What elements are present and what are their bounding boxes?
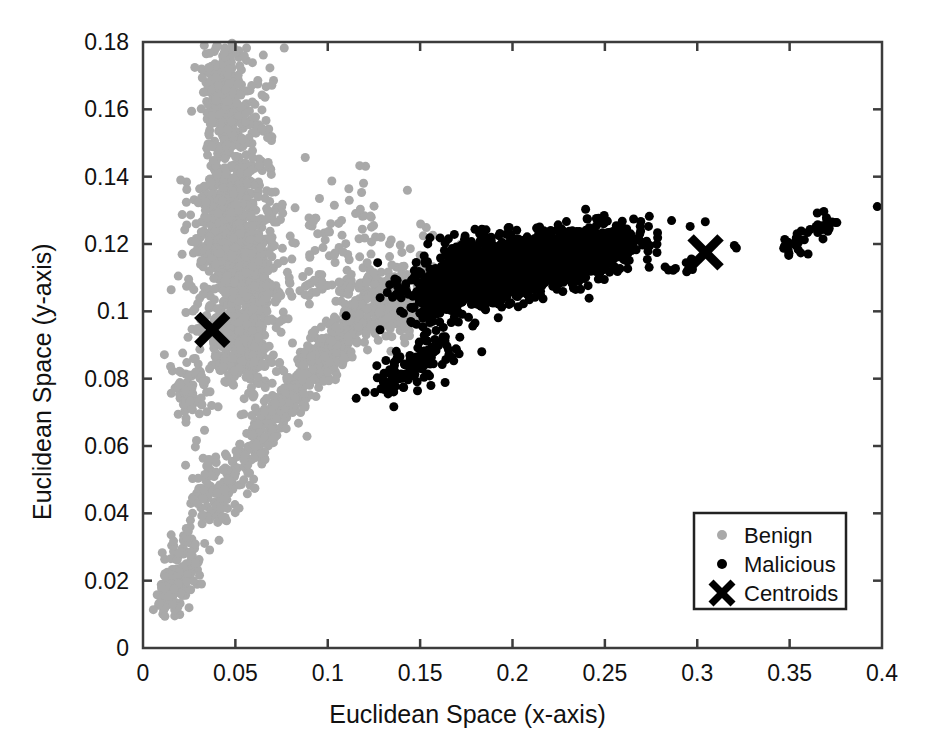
x-tick-label: 0.3 xyxy=(681,660,713,686)
x-tick-label: 0.4 xyxy=(866,660,898,686)
y-axis-tick-labels: 00.020.040.060.080.10.120.140.160.18 xyxy=(84,29,129,661)
x-tick-label: 0.1 xyxy=(312,660,344,686)
series-benign-points xyxy=(149,39,465,621)
legend-marker-benign xyxy=(717,530,727,540)
y-tick-label: 0.16 xyxy=(84,96,129,122)
y-tick-label: 0.18 xyxy=(84,29,129,55)
y-tick-label: 0.12 xyxy=(84,231,129,257)
y-tick-label: 0.04 xyxy=(84,500,129,526)
y-tick-label: 0.08 xyxy=(84,366,129,392)
y-tick-label: 0 xyxy=(116,635,129,661)
legend-label-centroids: Centroids xyxy=(744,581,838,606)
y-tick-label: 0.14 xyxy=(84,164,129,190)
legend-marker-malicious xyxy=(717,559,727,569)
plot-canvas: 00.050.10.150.20.250.30.350.4 00.020.040… xyxy=(0,0,935,754)
x-tick-label: 0.35 xyxy=(767,660,812,686)
scatter-plot-figure: Euclidean Space (y-axis) 00.050.10.150.2… xyxy=(0,0,935,754)
y-tick-label: 0.06 xyxy=(84,433,129,459)
x-axis-title: Euclidean Space (x-axis) xyxy=(0,700,935,729)
x-axis-tick-labels: 00.050.10.150.20.250.30.350.4 xyxy=(137,660,899,686)
y-tick-label: 0.1 xyxy=(97,298,129,324)
y-tick-label: 0.02 xyxy=(84,568,129,594)
legend-label-benign: Benign xyxy=(744,523,813,548)
x-tick-label: 0.15 xyxy=(398,660,443,686)
x-tick-label: 0 xyxy=(137,660,150,686)
legend-label-malicious: Malicious xyxy=(744,552,836,577)
x-tick-label: 0.25 xyxy=(582,660,627,686)
legend: BenignMaliciousCentroids xyxy=(694,513,846,609)
centroid-x-marker xyxy=(691,237,721,267)
x-tick-label: 0.2 xyxy=(497,660,529,686)
x-tick-label: 0.05 xyxy=(213,660,258,686)
